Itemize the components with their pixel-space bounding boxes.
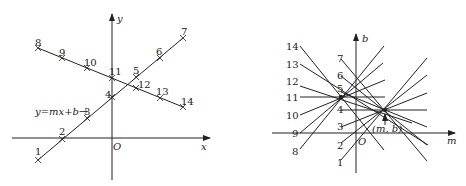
line-label-6: 6: [337, 70, 343, 81]
point-label-11: 11: [109, 66, 122, 77]
line-label-13: 13: [286, 59, 299, 70]
intersection-point-2: [383, 108, 387, 112]
line-label-3: 3: [337, 121, 343, 132]
m-axis-label: m: [447, 135, 456, 146]
image-space-plot: x y O y=mx+b→ 1 2 3 4 5 6: [12, 13, 210, 180]
line-label-11: 11: [286, 92, 299, 103]
line-label-4: 4: [337, 104, 343, 115]
line-label-5: 5: [337, 83, 343, 94]
line-label-7: 7: [337, 53, 343, 64]
point-label-1: 1: [35, 146, 41, 157]
lines-through-intersection-1: [300, 46, 428, 150]
y-axis-label: y: [116, 13, 123, 24]
point-label-7: 7: [181, 26, 187, 37]
point-label-13: 13: [156, 86, 169, 97]
line-label-12: 12: [286, 76, 299, 87]
line-label-10: 10: [286, 110, 299, 121]
point-label-6: 6: [156, 46, 162, 57]
line-label-14: 14: [286, 41, 299, 52]
point-label-14: 14: [181, 96, 194, 107]
parameter-space-plot: m b O (m, b) 1 2 3 4 5: [272, 33, 456, 173]
point-label-10: 10: [84, 57, 97, 68]
origin-label: O: [113, 141, 121, 152]
point-label-3: 3: [84, 106, 90, 117]
point-label-5: 5: [133, 65, 139, 76]
line-label-9: 9: [292, 128, 298, 139]
intersection-point-1: [339, 95, 343, 99]
b-axis-label: b: [362, 33, 368, 44]
x-axis-label: x: [201, 141, 207, 152]
point-label-2: 2: [59, 126, 65, 137]
line-label-8: 8: [292, 146, 298, 157]
point-label-mb: (m, b): [372, 123, 402, 134]
line-annotation: y=mx+b→: [34, 106, 88, 117]
hough-transform-diagram: x y O y=mx+b→ 1 2 3 4 5 6: [0, 0, 466, 186]
line-label-2: 2: [337, 140, 343, 151]
point-label-9: 9: [59, 47, 65, 58]
point-label-4: 4: [105, 89, 111, 100]
point-label-12: 12: [138, 79, 151, 90]
line-label-1: 1: [337, 157, 343, 168]
point-label-8: 8: [35, 37, 41, 48]
